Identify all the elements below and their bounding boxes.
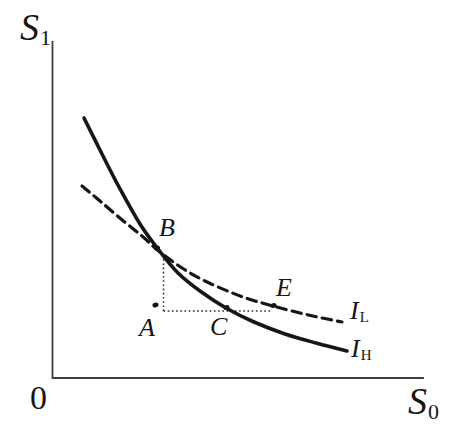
x-axis-label: S0 bbox=[408, 382, 439, 423]
origin-label: 0 bbox=[30, 381, 47, 415]
curve-IH-subscript: H bbox=[361, 347, 372, 363]
y-axis-subscript: 1 bbox=[40, 25, 51, 50]
curve-IL-symbol: I bbox=[350, 296, 359, 325]
curve-label-IH: IH bbox=[351, 336, 372, 363]
indifference-curve-IL-dashed bbox=[82, 186, 342, 322]
x-axis-symbol: S bbox=[408, 380, 427, 422]
curve-label-IL: IL bbox=[350, 298, 369, 325]
curve-IL-subscript: L bbox=[360, 309, 369, 325]
y-axis-label: S1 bbox=[20, 8, 51, 49]
point-label-E: E bbox=[276, 275, 292, 301]
point-dot-A bbox=[152, 302, 159, 308]
y-axis-symbol: S bbox=[20, 6, 39, 48]
indifference-curve-diagram: S1 0 S0 B A C E IL IH bbox=[0, 0, 458, 445]
curve-IH-symbol: I bbox=[351, 334, 360, 363]
x-axis-subscript: 0 bbox=[428, 399, 439, 424]
point-label-A: A bbox=[139, 315, 155, 341]
point-label-B: B bbox=[159, 215, 175, 241]
point-label-C: C bbox=[210, 314, 227, 340]
diagram-canvas bbox=[0, 0, 458, 445]
